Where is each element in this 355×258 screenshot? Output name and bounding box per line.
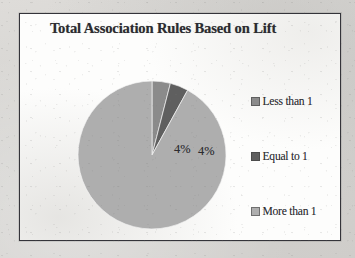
legend-item-more-than-1[interactable]: More than 1 bbox=[251, 184, 341, 239]
legend-item-equal-to-1[interactable]: Equal to 1 bbox=[251, 129, 341, 184]
legend-label-more-than-1: More than 1 bbox=[263, 205, 317, 218]
legend-swatch-equal-to-1 bbox=[251, 152, 260, 161]
pie-data-label-equal-to-1: 4% bbox=[198, 144, 215, 159]
chart-title: Total Association Rules Based on Lift bbox=[20, 20, 306, 37]
scanned-page: Total Association Rules Based on Lift 4%… bbox=[0, 0, 355, 258]
legend-label-equal-to-1: Equal to 1 bbox=[263, 150, 308, 163]
pie-data-label-less-than-1: 4% bbox=[174, 142, 191, 157]
pie-chart: 4% 4% 92% bbox=[77, 80, 227, 230]
legend-swatch-more-than-1 bbox=[251, 207, 260, 216]
chart-legend: Less than 1 Equal to 1 More than 1 bbox=[251, 74, 341, 239]
legend-label-less-than-1: Less than 1 bbox=[263, 95, 313, 108]
legend-item-less-than-1[interactable]: Less than 1 bbox=[251, 74, 341, 129]
legend-swatch-less-than-1 bbox=[251, 97, 260, 106]
chart-frame: Total Association Rules Based on Lift 4%… bbox=[19, 13, 341, 241]
